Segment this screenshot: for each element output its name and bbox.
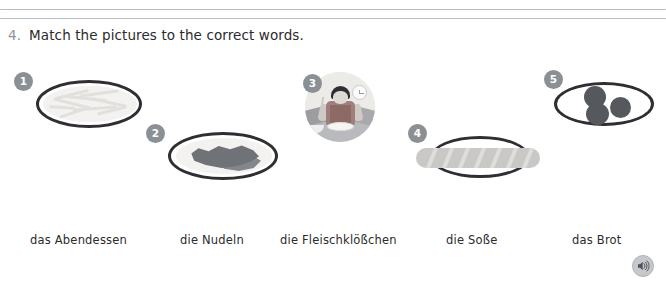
instruction-text: Match the pictures to the correct words. xyxy=(29,27,304,43)
baguette-score xyxy=(424,148,440,168)
picture-badge-3: 3 xyxy=(303,74,322,93)
word-option-3[interactable]: die Fleischklößchen xyxy=(280,233,397,247)
audio-play-button[interactable] xyxy=(632,255,654,277)
baguette-score xyxy=(488,148,504,168)
picture-meatballs[interactable]: 5 xyxy=(538,70,648,126)
picture-child-eating-dinner[interactable]: 3 xyxy=(300,72,380,138)
baguette-score xyxy=(456,148,472,168)
meatball xyxy=(610,97,631,118)
photo-plate xyxy=(327,122,354,131)
exercise-screen: 4. Match the pictures to the correct wor… xyxy=(0,0,666,281)
meatball xyxy=(586,103,609,125)
picture-badge-5: 5 xyxy=(544,70,563,89)
word-option-4[interactable]: die Soße xyxy=(446,233,497,247)
picture-badge-4: 4 xyxy=(408,124,427,143)
clock-icon xyxy=(352,85,367,100)
picture-badge-1: 1 xyxy=(14,72,33,91)
picture-baguette-bread[interactable]: 4 xyxy=(408,124,540,176)
plate-outline-2 xyxy=(168,132,278,180)
speaker-icon xyxy=(636,259,650,273)
word-option-5[interactable]: das Brot xyxy=(572,233,622,247)
baguette-shape xyxy=(416,148,540,168)
word-option-2[interactable]: die Nudeln xyxy=(180,233,244,247)
instruction-line: 4. Match the pictures to the correct wor… xyxy=(8,27,304,43)
word-option-1[interactable]: das Abendessen xyxy=(30,233,127,247)
picture-badge-2: 2 xyxy=(146,124,165,143)
previous-exercise-panel xyxy=(0,0,666,10)
picture-noodles-pile[interactable]: 2 xyxy=(146,124,272,180)
picture-pasta-strands[interactable]: 1 xyxy=(14,72,134,128)
baguette-score xyxy=(440,148,456,168)
plate-outline-1 xyxy=(36,80,142,128)
baguette-score xyxy=(472,148,488,168)
question-number: 4. xyxy=(8,27,21,43)
baguette-score xyxy=(504,148,520,168)
baguette-score xyxy=(520,148,536,168)
word-options-row: das Abendessen die Nudeln die Fleischklö… xyxy=(0,230,666,250)
photo-child-face xyxy=(333,91,348,104)
